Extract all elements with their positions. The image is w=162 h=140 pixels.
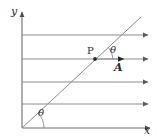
y-axis-label: y bbox=[11, 6, 17, 17]
x-axis-label: x bbox=[144, 125, 150, 136]
vector-a-label: A bbox=[114, 62, 123, 73]
vector-field-diagram: y x P θ θ A bbox=[0, 0, 162, 140]
point-p-dot bbox=[93, 57, 97, 61]
diagram-canvas bbox=[0, 0, 162, 140]
point-p-label: P bbox=[87, 46, 94, 56]
angle-theta-at-origin-label: θ bbox=[38, 108, 44, 118]
angle-theta-at-p-label: θ bbox=[110, 45, 116, 55]
